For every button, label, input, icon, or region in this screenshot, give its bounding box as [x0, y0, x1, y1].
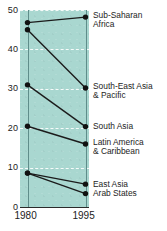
slope-line	[28, 173, 86, 184]
slope-chart: 01020304050 19801995 Sub-SaharanAfricaSo…	[0, 0, 167, 231]
series-label-line: & Pacific	[93, 91, 153, 100]
data-point	[83, 191, 88, 196]
series-2	[25, 82, 88, 129]
data-point	[83, 181, 88, 186]
slope-line	[28, 85, 86, 127]
series-layer	[0, 0, 167, 231]
series-label-sub-saharan-africa: Sub-SaharanAfrica	[93, 11, 142, 29]
data-point	[25, 124, 30, 129]
series-label-line: South Asia	[93, 122, 133, 131]
slope-line	[28, 17, 86, 23]
series-label-line: Arab States	[93, 189, 137, 198]
series-label-line: & Caribbean	[93, 147, 144, 156]
data-point	[83, 85, 88, 90]
series-label-south-asia: South Asia	[93, 122, 133, 131]
series-label-south-east-asia-pacific: South-East Asia& Pacific	[93, 82, 153, 100]
series-3	[25, 124, 88, 147]
slope-line	[28, 126, 86, 144]
data-point	[83, 14, 88, 19]
series-0	[25, 14, 88, 25]
series-label-arab-states: Arab States	[93, 189, 137, 198]
data-point	[25, 170, 30, 175]
series-4	[25, 170, 88, 186]
data-point	[25, 27, 30, 32]
slope-line	[28, 30, 86, 88]
data-point	[25, 82, 30, 87]
series-label-line: Africa	[93, 20, 142, 29]
slope-line	[28, 173, 86, 193]
data-point	[83, 124, 88, 129]
series-1	[25, 27, 88, 91]
data-point	[83, 141, 88, 146]
data-point	[25, 20, 30, 25]
series-label-latin-america-caribbean: Latin America& Caribbean	[93, 138, 144, 156]
